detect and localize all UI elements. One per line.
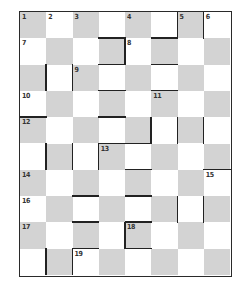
grid-cell[interactable]: [178, 144, 204, 170]
grid-cell[interactable]: [46, 91, 72, 117]
grid-cell[interactable]: [46, 222, 72, 248]
grid-cell[interactable]: 3: [73, 12, 99, 38]
grid-cell[interactable]: 13: [99, 144, 125, 170]
grid-cell[interactable]: [151, 144, 177, 170]
grid-cell[interactable]: 4: [125, 12, 151, 38]
grid-cell[interactable]: 11: [151, 91, 177, 117]
grid-cell[interactable]: [20, 144, 46, 170]
grid-cell[interactable]: [73, 170, 99, 196]
grid-cell[interactable]: 14: [20, 170, 46, 196]
wall-horizontal: [125, 248, 152, 250]
grid-cell[interactable]: [73, 196, 99, 222]
grid-cell[interactable]: [125, 144, 151, 170]
clue-number: 15: [206, 171, 214, 179]
grid-cell[interactable]: 8: [125, 38, 151, 64]
grid-cell[interactable]: 9: [73, 65, 99, 91]
wall-vertical: [203, 196, 205, 223]
grid-cell[interactable]: [73, 222, 99, 248]
wall-horizontal: [98, 37, 125, 39]
wall-horizontal: [98, 90, 125, 92]
wall-vertical: [124, 38, 126, 65]
grid-cell[interactable]: [204, 65, 230, 91]
grid-cell[interactable]: [151, 38, 177, 64]
wall-horizontal: [20, 116, 47, 118]
grid-cell[interactable]: [20, 65, 46, 91]
grid-cell[interactable]: [99, 12, 125, 38]
wall-vertical: [45, 64, 47, 91]
grid-cell[interactable]: [151, 170, 177, 196]
grid-cell[interactable]: [204, 117, 230, 143]
grid-cell[interactable]: [73, 91, 99, 117]
grid-cell[interactable]: 7: [20, 38, 46, 64]
wall-horizontal: [203, 169, 230, 171]
wall-vertical: [203, 117, 205, 144]
grid-cell[interactable]: 19: [73, 249, 99, 275]
grid-cell[interactable]: [125, 249, 151, 275]
grid-cell[interactable]: [125, 196, 151, 222]
grid-cell[interactable]: 15: [204, 170, 230, 196]
grid-cell[interactable]: [46, 38, 72, 64]
grid-cell[interactable]: 5: [178, 12, 204, 38]
grid-cell[interactable]: [125, 170, 151, 196]
grid-cell[interactable]: 16: [20, 196, 46, 222]
grid-cell[interactable]: [46, 117, 72, 143]
grid-cell[interactable]: [99, 65, 125, 91]
grid-cell[interactable]: 6: [204, 12, 230, 38]
grid-cell[interactable]: [46, 65, 72, 91]
grid-cell[interactable]: [99, 38, 125, 64]
grid-cell[interactable]: [46, 196, 72, 222]
wall-vertical: [98, 143, 100, 170]
wall-vertical: [72, 248, 74, 275]
grid-cell[interactable]: [151, 249, 177, 275]
grid-cell[interactable]: [204, 196, 230, 222]
grid-cell[interactable]: [46, 170, 72, 196]
grid-cell[interactable]: [178, 65, 204, 91]
grid-cell[interactable]: [178, 249, 204, 275]
grid-cell[interactable]: [73, 38, 99, 64]
grid-cell[interactable]: 1: [20, 12, 46, 38]
grid-cell[interactable]: 17: [20, 222, 46, 248]
grid-cell[interactable]: 18: [125, 222, 151, 248]
grid-cell[interactable]: [178, 38, 204, 64]
clue-number: 11: [153, 92, 161, 100]
grid-cell[interactable]: [20, 249, 46, 275]
clue-number: 5: [180, 13, 184, 21]
grid-cell[interactable]: [204, 144, 230, 170]
grid-cell[interactable]: [178, 117, 204, 143]
grid-cell[interactable]: [125, 91, 151, 117]
grid-cell[interactable]: [99, 222, 125, 248]
grid-cell[interactable]: [46, 249, 72, 275]
wall-horizontal: [72, 195, 99, 197]
grid-cell[interactable]: 12: [20, 117, 46, 143]
grid-cell[interactable]: [99, 170, 125, 196]
grid-cell[interactable]: [204, 249, 230, 275]
grid-cell[interactable]: [178, 91, 204, 117]
grid-cell[interactable]: [99, 196, 125, 222]
grid-cell[interactable]: [151, 65, 177, 91]
grid-cell[interactable]: [99, 91, 125, 117]
grid-cell[interactable]: [99, 249, 125, 275]
grid-cell[interactable]: [73, 117, 99, 143]
wall-vertical: [45, 143, 47, 170]
grid-cell[interactable]: [204, 222, 230, 248]
clue-number: 16: [22, 197, 30, 205]
grid-cell[interactable]: [178, 196, 204, 222]
grid-cell[interactable]: [151, 117, 177, 143]
wall-vertical: [72, 143, 74, 170]
grid-cell[interactable]: 10: [20, 91, 46, 117]
grid-cell[interactable]: [73, 144, 99, 170]
grid-cell[interactable]: [178, 222, 204, 248]
wall-vertical: [177, 196, 179, 223]
clue-number: 3: [75, 13, 79, 21]
grid-cell[interactable]: [99, 117, 125, 143]
grid-cell[interactable]: [151, 12, 177, 38]
grid-cell[interactable]: [204, 38, 230, 64]
grid-cell[interactable]: [151, 222, 177, 248]
grid-cell[interactable]: [178, 170, 204, 196]
grid-cell[interactable]: [151, 196, 177, 222]
grid-cell[interactable]: [46, 144, 72, 170]
grid-cell[interactable]: [125, 65, 151, 91]
grid-cell[interactable]: [125, 117, 151, 143]
grid-cell[interactable]: [204, 91, 230, 117]
grid-cell[interactable]: 2: [46, 12, 72, 38]
